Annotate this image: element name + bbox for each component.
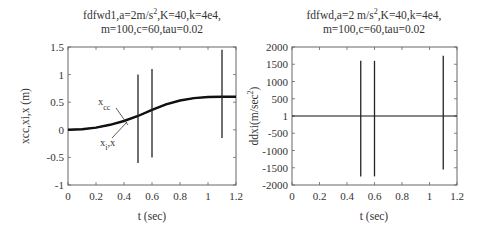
y-tick-label: 0 <box>59 124 65 136</box>
right-plot: fdfwd,a=2 m/s2​,K=40,k=4e4, m=100,c=60,t… <box>246 7 464 223</box>
y-tick-label: 1500 <box>266 58 289 70</box>
right-plot-ylabel: ddxi(m/sec2​) <box>246 86 261 145</box>
y-tick-label: 1000 <box>266 76 289 88</box>
y-tick-label: -1000 <box>262 145 288 157</box>
y-tick-label: 1 <box>59 69 65 81</box>
x-tick-label: 0.4 <box>340 190 354 202</box>
figure: fdfwd1,a=2m/s2​,K=40,k=4e4, m=100,c=60,t… <box>0 0 484 229</box>
y-tick-label: -500 <box>268 127 289 139</box>
x-tick-label: 0.4 <box>117 190 131 202</box>
annotation-xi-x: xi,x <box>100 137 116 152</box>
left-plot-xlabel: t (sec) <box>138 210 167 223</box>
right-plot-xlabel: t (sec) <box>360 210 389 223</box>
x-tick-label: 1.2 <box>450 190 464 202</box>
y-tick-label: -1 <box>55 179 64 191</box>
x-tick-label: 0.6 <box>368 190 382 202</box>
x-tick-label: 0 <box>289 190 295 202</box>
y-tick-label: 500 <box>272 93 289 105</box>
y-tick-label: 0.5 <box>50 96 64 108</box>
left-plot-axes: 00.20.40.60.811.2-1-0.500.511.5 <box>47 41 243 202</box>
x-tick-label: 1 <box>427 190 433 202</box>
x-tick-label: 0.8 <box>395 190 409 202</box>
y-tick-label: 1 <box>283 110 289 122</box>
x-tick-label: 0 <box>65 190 71 202</box>
right-plot-axes: 00.20.40.60.811.2-2000-1500-1000-5001500… <box>262 41 464 202</box>
left-plot-title-line2: m=100,c=60,tau=0.02 <box>101 23 203 36</box>
right-plot-title-line1: fdfwd,a=2 m/s2​,K=40,k=4e4, <box>307 7 442 22</box>
y-tick-label: 1.5 <box>50 41 64 53</box>
x-tick-label: 1 <box>205 190 211 202</box>
left-plot-ylabel: xcc,xi,x (m) <box>19 88 32 144</box>
annotation-xcc: xcc <box>98 96 111 112</box>
left-plot-series <box>68 50 236 163</box>
right-plot-title-line2: m=100,c=60,tau=0.02 <box>323 23 425 36</box>
y-tick-label: 2000 <box>266 41 289 53</box>
right-plot-series <box>292 56 457 177</box>
y-tick-label: -1500 <box>262 162 288 174</box>
x-tick-label: 0.2 <box>89 190 103 202</box>
y-tick-label: -2000 <box>262 179 288 191</box>
x-tick-label: 0.6 <box>145 190 159 202</box>
x-tick-label: 0.8 <box>173 190 187 202</box>
x-tick-label: 0.2 <box>313 190 327 202</box>
y-tick-label: -0.5 <box>47 151 65 163</box>
left-plot-title-line1: fdfwd1,a=2m/s2​,K=40,k=4e4, <box>83 7 221 22</box>
left-plot: fdfwd1,a=2m/s2​,K=40,k=4e4, m=100,c=60,t… <box>19 7 243 223</box>
x-tick-label: 1.2 <box>229 190 243 202</box>
